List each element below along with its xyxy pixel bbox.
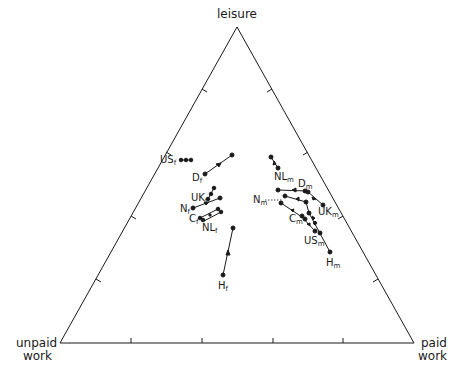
trajectory-nl-m [269, 155, 280, 170]
label-h-m: Hm [326, 257, 340, 272]
label-c-f: Cf [189, 213, 198, 228]
left-axis-ticks [96, 89, 207, 282]
label-d-f: Df [192, 172, 202, 187]
label-us-m: USm [304, 235, 325, 250]
label-us-f: USf [160, 154, 176, 169]
ternary-diagram [0, 0, 461, 370]
unpaid-line2: work [16, 350, 56, 363]
paid-line2: work [418, 350, 447, 363]
trajectory-us-f [179, 158, 193, 162]
label-n-m: Nm [253, 194, 267, 209]
label-uk-f: UKf [191, 192, 207, 207]
trajectory-uk-f [206, 186, 216, 201]
trajectory-h-f [221, 226, 235, 277]
base-axis-ticks [131, 338, 343, 343]
trajectory-d-f [203, 153, 234, 176]
label-h-f: Hf [218, 280, 228, 295]
vertex-label-paid-work: paid work [418, 337, 447, 363]
trajectory-c-f [198, 207, 223, 222]
label-nl-m: NLm [274, 171, 294, 186]
vertex-label-leisure: leisure [217, 8, 257, 21]
label-c-m: Cm [289, 213, 303, 228]
label-uk-m: UKm [318, 206, 339, 221]
ternary-triangle [60, 27, 414, 343]
vertex-label-unpaid-work: unpaid work [16, 337, 56, 363]
label-d-m: Dm [298, 178, 313, 193]
label-nl-f: NLf [202, 222, 218, 237]
trajectory-uk-m [283, 194, 311, 215]
